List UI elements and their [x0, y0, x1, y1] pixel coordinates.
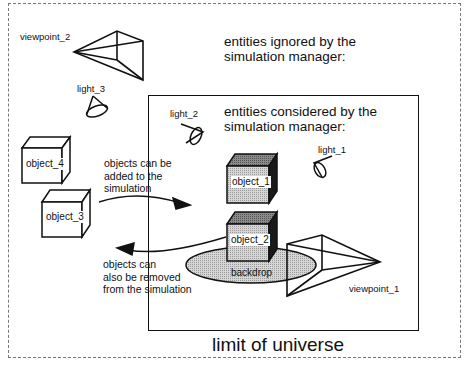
add-note-line2: added to the	[104, 170, 172, 183]
light-2-icon	[181, 124, 204, 146]
add-note: objects can be added to the simulation	[104, 157, 172, 195]
add-arrow-icon	[99, 196, 190, 209]
ignored-heading-line2: simulation manager:	[224, 49, 356, 64]
universe-label: limit of universe	[212, 334, 344, 356]
remove-note: objects can also be removed from the sim…	[103, 258, 192, 296]
remove-note-line3: from the simulation	[103, 283, 192, 296]
considered-heading-line2: simulation manager:	[224, 119, 377, 134]
light-1-icon	[312, 156, 332, 179]
object-4-label: object_4	[25, 158, 65, 170]
viewpoint-2-label: viewpoint_2	[20, 31, 70, 42]
object-3-label: object_3	[45, 211, 85, 223]
light-2-label: light_2	[170, 108, 198, 119]
considered-heading: entities considered by the simulation ma…	[224, 104, 377, 134]
light-3-label: light_3	[77, 83, 105, 94]
add-note-line1: objects can be	[104, 157, 172, 170]
ignored-heading-line1: entities ignored by the	[224, 34, 356, 49]
viewpoint-1-label: viewpoint_1	[349, 283, 399, 294]
object-2-label: object_2	[230, 234, 270, 246]
add-note-line3: simulation	[104, 182, 172, 195]
remove-note-line2: also be removed	[103, 271, 192, 284]
light-1-label: light_1	[318, 144, 346, 155]
object-1-label: object_1	[231, 176, 271, 188]
remove-note-line1: objects can	[103, 258, 192, 271]
viewpoint-2-icon	[74, 31, 143, 80]
considered-heading-line1: entities considered by the	[224, 104, 377, 119]
light-3-icon	[85, 96, 109, 119]
ignored-heading: entities ignored by the simulation manag…	[224, 34, 356, 64]
backdrop-label: backdrop	[231, 267, 272, 278]
